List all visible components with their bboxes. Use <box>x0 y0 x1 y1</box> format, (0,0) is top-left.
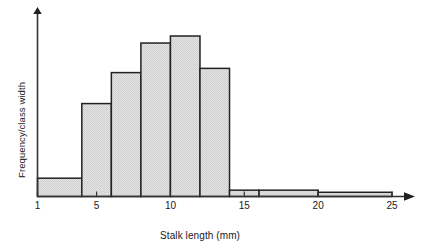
histogram-bar <box>170 36 200 197</box>
x-tick-label: 20 <box>298 200 338 211</box>
histogram-plot <box>0 0 422 252</box>
x-tick-label: 5 <box>77 200 117 211</box>
x-tick-label: 10 <box>150 200 190 211</box>
x-tick-label: 15 <box>224 200 264 211</box>
histogram-bar <box>38 178 82 196</box>
histogram-bar <box>259 190 318 196</box>
bar-group <box>38 36 393 197</box>
x-tick-label: 1 <box>18 200 58 211</box>
histogram-bar <box>82 104 112 197</box>
histogram-bar <box>200 68 230 196</box>
y-axis-arrow-icon <box>33 7 41 14</box>
x-axis-title: Stalk length (mm) <box>160 230 240 241</box>
x-tick-label: 25 <box>372 200 412 211</box>
histogram-figure: Frequency/class width Stalk length (mm) … <box>0 0 422 252</box>
histogram-bar <box>141 43 171 196</box>
histogram-bar <box>111 73 141 197</box>
y-axis-title: Frequency/class width <box>16 82 27 178</box>
